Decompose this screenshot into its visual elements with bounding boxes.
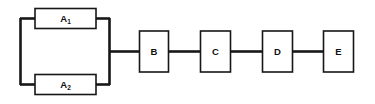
block-a2[interactable]: A2 [35,75,96,95]
block-d[interactable]: D [263,31,293,72]
block-a1[interactable]: A1 [35,9,96,29]
block-c-label: C [212,46,219,57]
block-e[interactable]: E [324,31,354,72]
block-e-label: E [335,46,341,57]
diagram-svg: A1 A2 B C D E [0,0,375,104]
block-diagram-canvas: A1 A2 B C D E [0,0,375,104]
block-b[interactable]: B [140,31,169,72]
block-d-label: D [274,46,281,57]
block-b-label: B [151,46,158,57]
block-c[interactable]: C [201,31,231,72]
block-a1-subscript: 1 [67,18,71,25]
block-a2-subscript: 2 [67,84,71,91]
